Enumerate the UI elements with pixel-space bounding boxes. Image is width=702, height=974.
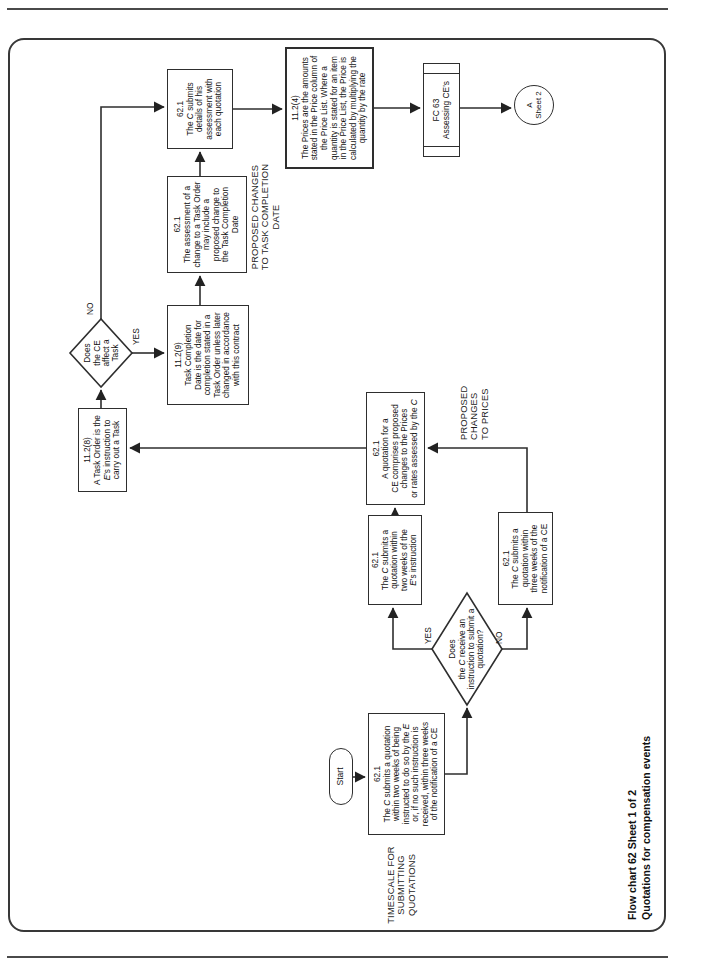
connector-timescale-to-decision: [445, 708, 467, 774]
submits-details-box: 62.1The C submitsdetails of hisassessmen…: [167, 69, 233, 149]
yes-label-receive: YES: [423, 627, 433, 644]
proposed-changes-completion-label: PROPOSED CHANGESTO TASK COMPLETIONDATE: [250, 156, 281, 278]
no-label-affect: NO: [85, 302, 95, 315]
connector-no-to-submits-details: [101, 107, 164, 319]
timescale-section-label: TIMESCALE FORSUBMITTINGQUOTATIONS: [386, 830, 417, 940]
scanned-book-page: Start 62.1The C submits a quotationwithi…: [0, 0, 702, 974]
flowchart-canvas: Start 62.1The C submits a quotationwithi…: [0, 0, 702, 974]
two-weeks-quotation-box: 62.1The C submits aquotation withintwo w…: [368, 515, 422, 605]
timescale-quotation-box: 62.1The C submits a quotationwithin two …: [368, 713, 445, 835]
assessment-change-box: 62.1The assessment of achange to a Task …: [167, 176, 247, 273]
connector-no-to-three-weeks: [501, 608, 527, 649]
task-order-definition-box: 11.2(8)A Task Order is theE's instructio…: [78, 408, 127, 492]
yes-label-affect: YES: [131, 328, 141, 345]
sheet2-connector-circle: ASheet 2: [514, 85, 554, 125]
three-weeks-quotation-box: 62.1The C submits aquotation withinthree…: [498, 512, 553, 605]
receive-instruction-decision-text: Doesthe C receive aninstruction to submi…: [441, 599, 493, 699]
prices-definition-box: 11.2(4)The Prices are the amountsstated …: [285, 47, 374, 169]
connector-three-weeks-to-quotation: [428, 448, 527, 512]
no-label-receive: NO: [494, 631, 504, 644]
proposed-changes-prices-label: PROPOSEDCHANGESTO PRICES: [459, 358, 490, 440]
ce-affect-task-decision-text: Doesthe CEaffect aTask: [83, 319, 121, 387]
task-completion-date-box: 11.2(9)Task CompletionDate is the date f…: [167, 305, 249, 405]
flowchart-caption: Flow chart 62 Sheet 1 of 2Quotations for…: [626, 736, 653, 920]
start-terminator: Start: [329, 748, 353, 805]
fc63-assessing-ces-subroutine: FC 63Assessing CE's: [423, 63, 460, 157]
quotation-comprises-box: 62.1A quotation for aCE comprises propos…: [366, 392, 425, 505]
